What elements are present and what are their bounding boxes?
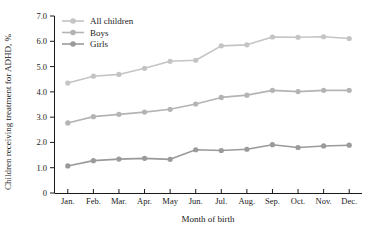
y-tick-label: 7.0 xyxy=(36,11,47,21)
y-tick-label: 1.0 xyxy=(36,163,47,173)
y-axis-title: Children receiving treatment for ADHD, % xyxy=(3,34,13,190)
x-tick-label: Apr. xyxy=(137,196,152,206)
data-point xyxy=(142,66,147,71)
data-point xyxy=(347,143,352,148)
y-tick-label: 5.0 xyxy=(36,62,47,72)
data-point xyxy=(219,43,224,48)
chart-container: 01.02.03.04.05.06.07.0 Children receivin… xyxy=(0,0,369,228)
data-point xyxy=(295,89,300,94)
data-point xyxy=(193,147,198,152)
data-point xyxy=(219,148,224,153)
data-point xyxy=(168,107,173,112)
data-point xyxy=(142,109,147,114)
x-tick-label: Oct. xyxy=(291,196,305,206)
data-point xyxy=(347,36,352,41)
data-point xyxy=(65,120,70,125)
data-point xyxy=(295,35,300,40)
adhd-treatment-line-chart: 01.02.03.04.05.06.07.0 Children receivin… xyxy=(0,0,369,228)
legend-marker-icon xyxy=(70,41,76,47)
data-point xyxy=(116,72,121,77)
legend-marker-icon xyxy=(70,18,76,24)
x-tick-label: Jul. xyxy=(215,196,227,206)
data-point xyxy=(219,95,224,100)
data-point xyxy=(193,58,198,63)
y-tick-label: 3.0 xyxy=(36,112,47,122)
data-point xyxy=(321,34,326,39)
data-point xyxy=(295,145,300,150)
x-tick-label: Feb. xyxy=(86,196,101,206)
data-point xyxy=(65,80,70,85)
data-point xyxy=(321,143,326,148)
legend-label: All children xyxy=(90,16,134,26)
data-point xyxy=(270,34,275,39)
data-point xyxy=(244,93,249,98)
data-point xyxy=(116,112,121,117)
x-tick-label: Jun. xyxy=(189,196,203,206)
y-tick-label: 0 xyxy=(43,188,47,198)
y-tick-label: 2.0 xyxy=(36,137,47,147)
data-point xyxy=(193,101,198,106)
x-tick-label: May xyxy=(162,196,178,206)
data-point xyxy=(65,163,70,168)
legend-label: Girls xyxy=(90,39,108,49)
data-point xyxy=(168,59,173,64)
data-point xyxy=(91,74,96,79)
data-point xyxy=(142,156,147,161)
data-point xyxy=(168,157,173,162)
data-point xyxy=(347,88,352,93)
x-tick-label: Sep. xyxy=(265,196,280,206)
data-point xyxy=(244,42,249,47)
data-point xyxy=(270,142,275,147)
data-point xyxy=(91,158,96,163)
data-point xyxy=(91,114,96,119)
data-point xyxy=(321,88,326,93)
x-axis-title: Month of birth xyxy=(182,214,235,224)
data-point xyxy=(116,157,121,162)
x-tick-label: Nov. xyxy=(316,196,332,206)
x-tick-label: Jan. xyxy=(61,196,74,206)
x-tick-label: Aug. xyxy=(238,196,255,206)
x-tick-label: Mar. xyxy=(111,196,127,206)
data-point xyxy=(270,88,275,93)
y-tick-label: 6.0 xyxy=(36,36,47,46)
legend-marker-icon xyxy=(70,30,76,36)
data-point xyxy=(244,147,249,152)
y-tick-label: 4.0 xyxy=(36,87,47,97)
x-tick-label: Dec. xyxy=(341,196,357,206)
legend-label: Boys xyxy=(90,28,109,38)
